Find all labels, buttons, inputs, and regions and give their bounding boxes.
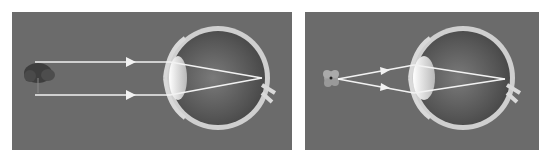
tree-icon bbox=[24, 63, 55, 93]
eye-diagram bbox=[0, 0, 554, 155]
flower-icon bbox=[323, 70, 339, 87]
arrow-icon bbox=[126, 57, 136, 67]
arrow-icon bbox=[126, 90, 136, 100]
arrow-icon bbox=[380, 67, 390, 75]
arrow-icon bbox=[380, 83, 390, 91]
